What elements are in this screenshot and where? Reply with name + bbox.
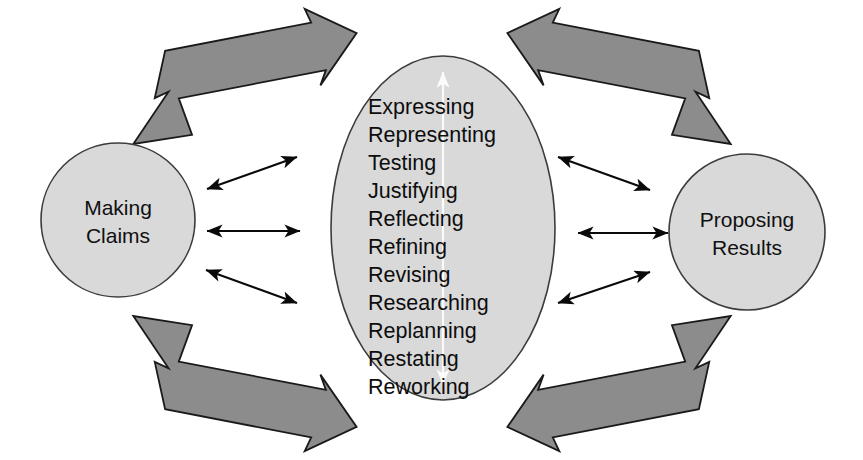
diagram-canvas: Making Claims Proposing Results Expressi…	[0, 0, 863, 460]
process-item-2: Testing	[368, 151, 436, 175]
process-item-10: Reworking	[368, 375, 470, 399]
process-item-9: Restating	[368, 347, 459, 371]
process-item-3: Justifying	[368, 179, 458, 203]
process-item-0: Expressing	[368, 95, 474, 119]
process-item-6: Revising	[368, 263, 450, 287]
process-item-1: Representing	[368, 123, 496, 147]
proposing-results-label-line2: Results	[712, 236, 782, 259]
process-cycle-diagram: Making Claims Proposing Results Expressi…	[0, 0, 863, 460]
proposing-results-label-line1: Proposing	[700, 208, 795, 231]
proposing-results-circle	[669, 154, 825, 310]
making-claims-circle	[41, 143, 195, 297]
making-claims-label-line1: Making	[84, 196, 152, 219]
process-item-5: Refining	[368, 235, 447, 259]
process-item-8: Replanning	[368, 319, 477, 343]
making-claims-label-line2: Claims	[86, 224, 150, 247]
process-item-4: Reflecting	[368, 207, 464, 231]
process-item-7: Researching	[368, 291, 489, 315]
